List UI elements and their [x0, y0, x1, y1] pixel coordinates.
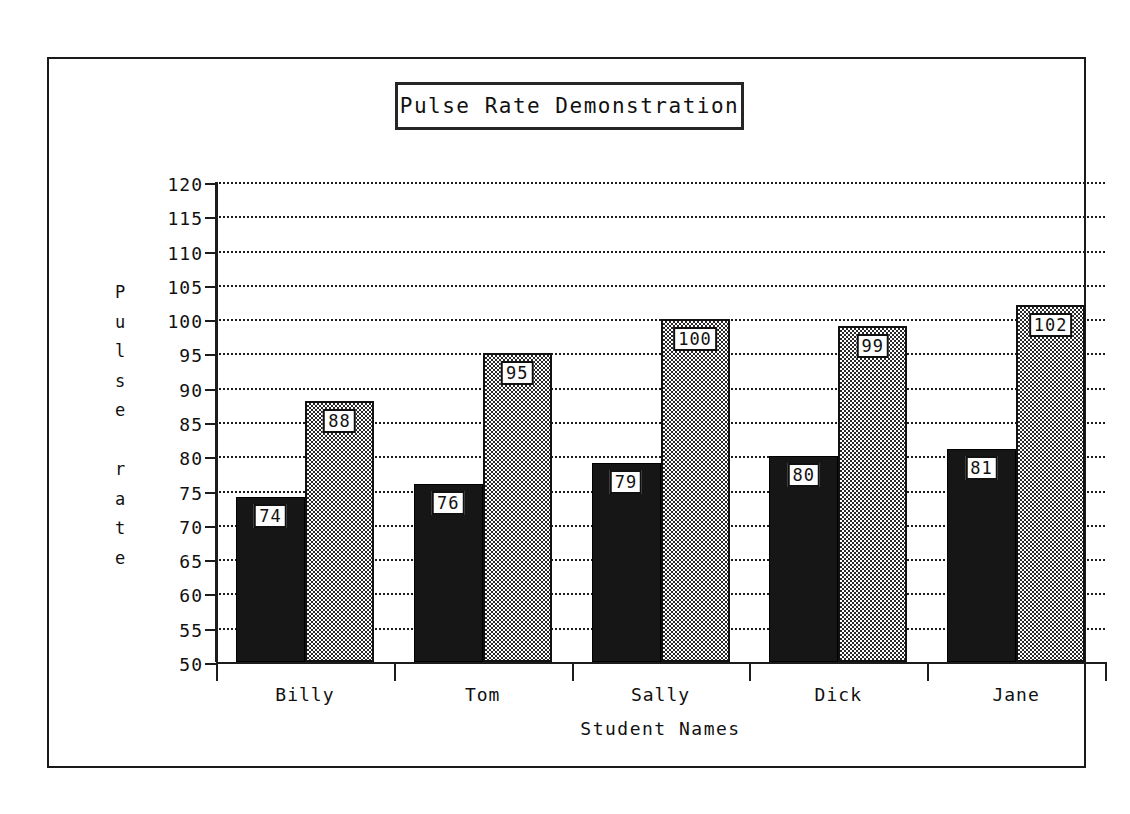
- bar-tom-exercise[interactable]: 95: [483, 353, 552, 662]
- chart-title-box: Pulse Rate Demonstration: [395, 82, 744, 130]
- bar-sally-resting[interactable]: 79: [592, 463, 661, 662]
- y-axis-title: Pulse rate: [107, 278, 133, 573]
- y-axis-title-char: t: [115, 514, 125, 544]
- y-tick-label: 100: [167, 311, 203, 332]
- y-tick-mark: [205, 629, 216, 631]
- bar-value-label: 76: [432, 491, 464, 515]
- y-tick-label: 115: [167, 208, 203, 229]
- y-tick-label: 80: [179, 448, 203, 469]
- x-tick-mark: [1105, 662, 1107, 681]
- y-tick-label: 105: [167, 276, 203, 297]
- gridline: 110: [216, 251, 1105, 253]
- bar-sally-exercise[interactable]: 100: [661, 319, 730, 662]
- x-category-label-billy: Billy: [275, 684, 334, 705]
- y-axis-title-char: e: [115, 544, 125, 574]
- y-tick-label: 50: [179, 654, 203, 675]
- y-tick-mark: [205, 526, 216, 528]
- y-axis-title-char: r: [115, 455, 125, 485]
- y-tick-mark: [205, 286, 216, 288]
- bar-value-label: 79: [610, 470, 642, 494]
- y-tick-label: 75: [179, 482, 203, 503]
- bar-value-label: 102: [1029, 313, 1073, 337]
- x-tick-mark: [216, 662, 218, 681]
- bar-billy-exercise[interactable]: 88: [305, 401, 374, 662]
- y-tick-mark: [205, 594, 216, 596]
- bar-jane-exercise[interactable]: 102: [1016, 305, 1085, 662]
- y-axis-title-char: u: [115, 308, 125, 338]
- y-axis-title-char: P: [115, 278, 125, 308]
- bar-value-label: 74: [254, 504, 286, 528]
- y-tick-mark: [205, 492, 216, 494]
- y-tick-label: 60: [179, 585, 203, 606]
- y-tick-mark: [205, 457, 216, 459]
- y-tick-mark: [205, 423, 216, 425]
- y-tick-mark: [205, 354, 216, 356]
- y-axis-title-char: l: [115, 337, 125, 367]
- y-axis-title-char: s: [115, 367, 125, 397]
- x-tick-mark: [394, 662, 396, 681]
- gridline: 50: [216, 662, 1105, 664]
- chart-frame: Pulse Rate Demonstration Pulse rate 1201…: [47, 57, 1086, 768]
- bar-dick-exercise[interactable]: 99: [838, 326, 907, 662]
- y-tick-mark: [205, 217, 216, 219]
- x-tick-mark: [749, 662, 751, 681]
- y-axis-title-char: e: [115, 396, 125, 426]
- y-tick-label: 120: [167, 174, 203, 195]
- y-tick-mark: [205, 183, 216, 185]
- x-tick-mark: [572, 662, 574, 681]
- bar-value-label: 88: [323, 409, 355, 433]
- gridline: 105: [216, 285, 1105, 287]
- bar-jane-resting[interactable]: 81: [947, 449, 1016, 662]
- y-tick-label: 65: [179, 551, 203, 572]
- plot-area: 12011511010510095908580757065605550 7488…: [216, 182, 1105, 662]
- bar-value-label: 95: [501, 361, 533, 385]
- bar-value-label: 99: [857, 334, 889, 358]
- x-category-label-jane: Jane: [992, 684, 1039, 705]
- y-tick-mark: [205, 320, 216, 322]
- bar-value-label: 81: [965, 456, 997, 480]
- y-axis-title-char: a: [115, 485, 125, 515]
- page-title: Pulse Rate Demonstration: [400, 94, 739, 118]
- bar-billy-resting[interactable]: 74: [236, 497, 305, 662]
- x-category-label-tom: Tom: [465, 684, 501, 705]
- x-axis-title: Student Names: [580, 718, 740, 739]
- y-tick-label: 90: [179, 379, 203, 400]
- y-tick-label: 55: [179, 619, 203, 640]
- bar-tom-resting[interactable]: 76: [414, 484, 483, 662]
- y-tick-mark: [205, 252, 216, 254]
- x-category-label-dick: Dick: [815, 684, 862, 705]
- y-tick-mark: [205, 663, 216, 665]
- x-tick-mark: [927, 662, 929, 681]
- gridline: 115: [216, 216, 1105, 218]
- y-tick-label: 70: [179, 516, 203, 537]
- gridline: 120: [216, 182, 1105, 184]
- y-tick-mark: [205, 560, 216, 562]
- x-category-label-sally: Sally: [631, 684, 690, 705]
- y-tick-label: 85: [179, 414, 203, 435]
- y-tick-label: 95: [179, 345, 203, 366]
- y-tick-label: 110: [167, 242, 203, 263]
- bar-value-label: 100: [673, 327, 717, 351]
- y-tick-mark: [205, 389, 216, 391]
- bar-dick-resting[interactable]: 80: [769, 456, 838, 662]
- bar-value-label: 80: [788, 463, 820, 487]
